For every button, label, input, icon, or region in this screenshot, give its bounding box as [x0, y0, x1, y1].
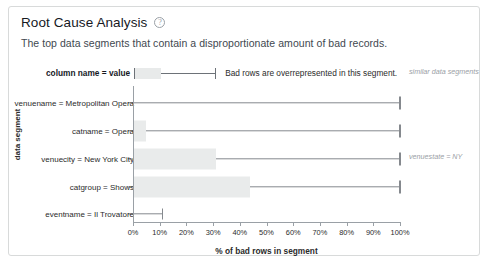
x-axis-title: % of bad rows in segment — [133, 246, 400, 256]
legend-description: Bad rows are overrepresented in this seg… — [225, 68, 397, 78]
legend-key-label: column name = value — [46, 68, 130, 78]
page-title: Root Cause Analysis — [21, 15, 147, 30]
chart-legend: column name = value Bad rows are overrep… — [46, 66, 397, 80]
card-header: Root Cause Analysis ? — [21, 15, 165, 30]
root-cause-analysis-screenshot: Root Cause Analysis ? The top data segme… — [0, 0, 491, 271]
legend-cap-right — [215, 68, 216, 79]
legend-box-swatch — [135, 68, 161, 79]
y-axis-title: data segment — [13, 105, 22, 165]
similar-data-segments-note: similar data segments — [409, 67, 479, 76]
annotation-venuestate: venuestate = NY — [409, 152, 462, 161]
root-cause-analysis-card: Root Cause Analysis ? The top data segme… — [8, 6, 480, 256]
y-axis-line — [133, 86, 134, 222]
question-circle-icon[interactable]: ? — [154, 17, 165, 28]
card-subtitle: The top data segments that contain a dis… — [21, 37, 387, 49]
legend-box-whisker-glyph — [134, 67, 218, 80]
x-axis-line — [133, 222, 401, 223]
legend-whisker-line — [161, 73, 215, 74]
